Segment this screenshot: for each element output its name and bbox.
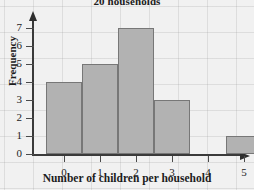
- histogram-figure: 20 households Frequency Number of childr…: [0, 0, 254, 190]
- histogram-bar: [46, 82, 82, 154]
- x-axis-tick: [244, 156, 245, 162]
- x-axis-tick-label: 4: [198, 166, 218, 178]
- x-axis-tick: [172, 156, 173, 162]
- x-axis-tick: [100, 156, 101, 162]
- y-axis-tick-label: 6: [17, 39, 23, 51]
- histogram-bar: [154, 100, 190, 154]
- plot-area: 01234567 012345: [32, 14, 246, 156]
- histogram-bar: [82, 64, 118, 154]
- y-axis-tick: 0: [26, 154, 34, 155]
- x-axis-tick-label: 1: [90, 166, 110, 178]
- x-axis-tick-label: 2: [126, 166, 146, 178]
- y-axis-tick-label: 7: [17, 21, 23, 33]
- x-axis-tick-label: 0: [54, 166, 74, 178]
- histogram-bar: [226, 136, 254, 154]
- chart-title: 20 households: [0, 0, 254, 7]
- x-axis-tick: [136, 156, 137, 162]
- y-axis-tick-label: 1: [17, 129, 23, 141]
- y-axis-tick-label: 2: [17, 111, 23, 123]
- y-axis-tick-label: 4: [17, 75, 23, 87]
- histogram-bar: [118, 28, 154, 154]
- y-axis-tick-label: 3: [17, 93, 23, 105]
- bar-series: [32, 14, 246, 154]
- x-axis-tick: [208, 156, 209, 162]
- x-axis-tick-label: 5: [234, 166, 254, 178]
- x-axis-tick-label: 3: [162, 166, 182, 178]
- x-axis-tick: [64, 156, 65, 162]
- y-axis-tick-label: 0: [17, 147, 23, 159]
- y-axis-tick-label: 5: [17, 57, 23, 69]
